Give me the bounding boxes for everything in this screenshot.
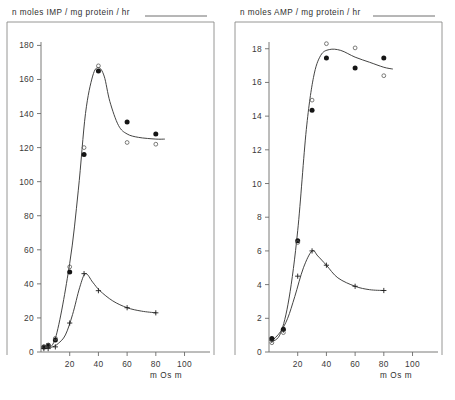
data-point: [353, 66, 358, 71]
svg-text:180: 180: [19, 40, 34, 50]
svg-text:100: 100: [19, 177, 34, 187]
svg-text:140: 140: [19, 109, 34, 119]
data-point: [153, 310, 158, 315]
data-point: [310, 98, 314, 102]
panel-amp-plot: 02468101214161820406080100: [228, 0, 455, 400]
svg-text:16: 16: [252, 77, 262, 87]
svg-text:60: 60: [24, 245, 34, 255]
data-point: [382, 74, 386, 78]
data-point: [81, 271, 86, 276]
panel-amp: n moles AMP / mg protein / hr m Os m 024…: [228, 0, 455, 400]
data-point: [353, 46, 357, 50]
fitted-curve: [272, 250, 384, 341]
panel-imp: n moles IMP / mg protein / hr m Os m 020…: [0, 0, 227, 400]
data-point: [381, 288, 386, 293]
data-point: [381, 56, 386, 61]
data-point: [125, 141, 129, 145]
svg-text:10: 10: [252, 179, 262, 189]
data-point: [67, 320, 72, 325]
data-point: [96, 68, 101, 73]
data-point: [324, 56, 329, 61]
svg-text:160: 160: [19, 74, 34, 84]
svg-text:20: 20: [65, 359, 75, 369]
svg-text:12: 12: [252, 145, 262, 155]
figure-container: n moles IMP / mg protein / hr m Os m 020…: [0, 0, 455, 400]
data-point: [310, 108, 315, 113]
svg-text:2: 2: [257, 313, 262, 323]
data-point: [53, 344, 58, 349]
svg-text:20: 20: [24, 313, 34, 323]
svg-text:0: 0: [257, 347, 262, 357]
svg-text:14: 14: [252, 111, 262, 121]
data-point: [295, 274, 300, 279]
data-point: [154, 142, 158, 146]
data-point: [82, 152, 87, 157]
data-point: [353, 284, 358, 289]
svg-text:120: 120: [19, 143, 34, 153]
svg-text:6: 6: [257, 246, 262, 256]
svg-text:8: 8: [257, 212, 262, 222]
svg-text:80: 80: [379, 359, 389, 369]
svg-text:100: 100: [405, 359, 420, 369]
svg-text:60: 60: [350, 359, 360, 369]
data-point: [153, 131, 158, 136]
svg-text:20: 20: [293, 359, 303, 369]
data-point: [67, 269, 72, 274]
fitted-curve: [44, 68, 165, 348]
data-point: [96, 288, 101, 293]
svg-text:4: 4: [257, 280, 262, 290]
svg-text:40: 40: [93, 359, 103, 369]
svg-text:100: 100: [177, 359, 192, 369]
fitted-curve: [272, 49, 393, 342]
data-point: [325, 42, 329, 46]
svg-text:60: 60: [122, 359, 132, 369]
svg-text:18: 18: [252, 44, 262, 54]
panel-imp-plot: 02040608010012014016018020406080100: [0, 0, 227, 400]
svg-text:40: 40: [24, 279, 34, 289]
data-point: [125, 120, 130, 125]
svg-text:80: 80: [151, 359, 161, 369]
fitted-curve: [44, 274, 156, 349]
svg-text:80: 80: [24, 211, 34, 221]
data-point: [125, 305, 130, 310]
svg-text:40: 40: [321, 359, 331, 369]
svg-text:0: 0: [29, 347, 34, 357]
data-point: [82, 146, 86, 150]
